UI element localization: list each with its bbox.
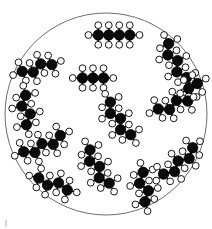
hydrogen-atom — [46, 132, 53, 139]
hydrogen-atom — [36, 108, 43, 115]
hydrogen-atom — [24, 157, 31, 164]
hydrogen-atom — [199, 89, 206, 96]
hydrogen-atom — [9, 105, 16, 112]
hydrogen-atom — [174, 36, 181, 43]
carbon-atom — [34, 173, 44, 183]
hydrogen-atom — [34, 78, 41, 85]
hydrogen-atom — [41, 70, 48, 77]
hydrogen-atom — [110, 75, 117, 82]
hydrogen-atom — [115, 94, 122, 101]
hydrogen-atom — [144, 208, 151, 215]
hydrogen-atom — [32, 119, 39, 126]
hydrogen-atom — [13, 94, 20, 101]
carbon-atom — [48, 139, 58, 149]
hydrogen-atom — [168, 150, 175, 157]
molecule-scene — [0, 0, 212, 229]
hydrogen-atom — [54, 150, 61, 157]
carbon-atom — [115, 125, 125, 135]
hydrogen-atom — [188, 106, 195, 113]
hydrogen-atom — [82, 138, 89, 145]
hydrogen-atom — [90, 65, 97, 72]
carbon-atom — [105, 108, 115, 118]
hydrogen-atom — [53, 123, 60, 130]
hydrogen-atom — [170, 115, 177, 122]
hydrogen-atom — [116, 41, 123, 48]
hydrogen-atom — [100, 65, 107, 72]
hydrogen-atom — [102, 90, 109, 97]
carbon-atom — [104, 178, 114, 188]
hydrogen-atom — [42, 191, 49, 198]
hydrogen-atom — [53, 189, 60, 196]
hydrogen-atom — [43, 149, 50, 156]
carbon-atom — [85, 145, 95, 155]
carbon-atom — [125, 30, 135, 40]
hydrogen-atom — [177, 106, 184, 113]
hydrogen-atom — [46, 172, 53, 179]
hydrogen-atom — [95, 22, 102, 29]
carbon-atom — [163, 38, 173, 48]
carbon-atom — [47, 59, 57, 69]
hydrogen-atom — [146, 177, 153, 184]
hydrogen-atom — [136, 126, 143, 133]
carbon-atom — [21, 120, 31, 130]
hydrogen-atom — [182, 64, 189, 71]
carbon-atom — [94, 161, 104, 171]
hydrogen-atom — [85, 32, 92, 39]
carbon-atom — [28, 67, 38, 77]
hydrogen-atom — [17, 113, 24, 120]
carbon-atom — [17, 66, 27, 76]
hydrogen-atom — [127, 183, 134, 190]
hydrogen-atom — [167, 178, 174, 185]
hydrogen-atom — [109, 120, 116, 127]
carbon-atom — [153, 104, 163, 114]
hydrogen-atom — [180, 77, 187, 84]
hydrogen-atom — [116, 22, 123, 29]
carbon-atom — [115, 113, 125, 123]
hydrogen-atom — [78, 151, 85, 158]
hydrogen-atom — [90, 84, 97, 91]
hydrogen-atom — [26, 172, 33, 179]
carbon-atom — [93, 30, 103, 40]
hydrogen-atom — [125, 121, 132, 128]
hydrogen-atom — [78, 163, 85, 170]
hydrogen-atom — [197, 138, 204, 145]
hydrogen-atom — [177, 90, 184, 97]
hydrogen-atom — [25, 131, 32, 138]
hydrogen-atom — [99, 115, 106, 122]
carbon-atom — [173, 156, 183, 166]
carbon-atom — [42, 180, 52, 190]
hydrogen-atom — [28, 140, 35, 147]
carbon-atom — [98, 73, 108, 83]
carbon-atom — [126, 129, 136, 139]
hydrogen-atom — [165, 73, 172, 80]
hydrogen-atom — [16, 139, 23, 146]
carbon-atom — [184, 153, 194, 163]
carbon-atom — [37, 138, 47, 148]
hydrogen-atom — [157, 45, 164, 52]
carbon-atom — [62, 185, 72, 195]
hydrogen-atom — [105, 158, 112, 165]
hydrogen-atom — [45, 52, 52, 59]
carbon-atom — [169, 166, 179, 176]
hydrogen-atom — [36, 158, 43, 165]
carbon-atom — [140, 197, 150, 207]
carbon-atom — [20, 90, 30, 100]
hydrogen-atom — [61, 141, 68, 148]
hydrogen-atom — [189, 72, 196, 79]
hydrogen-atom — [126, 41, 133, 48]
hydrogen-atom — [115, 105, 122, 112]
carbon-atom — [55, 130, 65, 140]
carbon-atom — [114, 30, 124, 40]
carbon-atom — [88, 73, 98, 83]
hydrogen-atom — [190, 94, 197, 101]
hydrogen-atom — [34, 51, 41, 58]
hydrogen-atom — [159, 114, 166, 121]
hydrogen-atom — [95, 41, 102, 48]
carbon-atom — [17, 101, 27, 111]
hydrogen-atom — [166, 62, 173, 69]
hydrogen-atom — [162, 97, 169, 104]
hydrogen-atom — [38, 165, 45, 172]
hydrogen-atom — [79, 84, 86, 91]
hydrogen-atom — [156, 56, 163, 63]
hydrogen-atom — [136, 190, 143, 197]
